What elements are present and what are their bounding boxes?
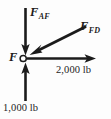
force-fd-subscript: FD [89, 26, 101, 35]
force-fd-shaft [38, 27, 86, 51]
load-vector-2000-arrow [27, 54, 96, 63]
force-af-label: FAF [30, 3, 49, 19]
free-body-diagram: FAF FFD F 2,000 lb 1,000 lb [0, 0, 111, 119]
joint-node-circle [20, 55, 26, 61]
load-2000-label: 2,000 lb [56, 65, 91, 76]
force-vector-af-arrow [21, 8, 29, 56]
joint-label: F [9, 51, 17, 64]
force-fd-label: FFD [80, 17, 100, 33]
load-1000-label: 1,000 lb [3, 103, 38, 114]
force-fd-symbol: F [80, 19, 88, 33]
force-af-symbol: F [30, 5, 38, 19]
force-vector-fd-arrow [30, 27, 87, 56]
load-vector-1000-arrow [21, 63, 29, 102]
force-af-subscript: AF [39, 12, 50, 21]
